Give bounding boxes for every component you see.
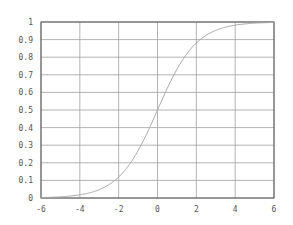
x-tick-label: 6 [272, 205, 277, 214]
sigmoid-chart: -6-4-20246 00.10.20.30.40.50.60.70.80.91 [0, 0, 293, 225]
y-tick-label: 0.7 [19, 71, 34, 80]
x-tick-label: 0 [155, 205, 160, 214]
x-tick-label: 4 [233, 205, 238, 214]
y-tick-label: 0.2 [19, 159, 34, 168]
y-tick-label: 0.8 [19, 53, 34, 62]
y-axis-tick-labels: 00.10.20.30.40.50.60.70.80.91 [19, 18, 34, 203]
y-tick-label: 0.9 [19, 36, 34, 45]
x-tick-label: -2 [114, 205, 124, 214]
x-tick-label: 2 [194, 205, 199, 214]
y-tick-label: 0.6 [19, 88, 34, 97]
y-tick-label: 0 [28, 194, 33, 203]
x-tick-label: -6 [36, 205, 46, 214]
y-tick-label: 0.1 [19, 176, 34, 185]
x-axis-tick-labels: -6-4-20246 [36, 205, 276, 214]
y-tick-label: 0.5 [19, 106, 34, 115]
y-tick-label: 1 [28, 18, 33, 27]
y-tick-label: 0.4 [19, 124, 34, 133]
y-tick-label: 0.3 [19, 141, 34, 150]
x-tick-label: -4 [75, 205, 85, 214]
